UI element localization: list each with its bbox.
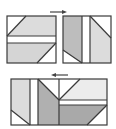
bottom-arrow-icon [51,73,68,77]
quilt-assembly-diagram [0,0,116,129]
top-right-square [63,16,111,63]
top-left-square [7,16,56,63]
top-arrow-icon [50,10,67,14]
bottom-rectangle [11,79,107,125]
